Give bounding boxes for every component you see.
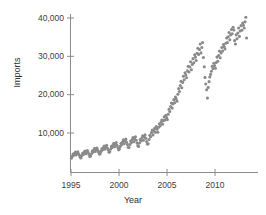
y-axis-tick-label: 40,000 [0,14,64,23]
data-point [201,41,204,44]
data-point [190,68,193,71]
data-point [184,74,187,77]
data-point [227,35,230,38]
data-point [171,107,174,110]
data-point [228,38,231,41]
data-point [192,61,195,64]
data-point [234,43,237,46]
data-point [156,131,159,134]
data-point [108,150,111,153]
data-point [231,32,234,35]
data-point [166,118,169,121]
data-point [210,70,213,73]
data-point [208,80,211,83]
data-point [244,20,247,23]
data-point [203,76,206,79]
data-point [177,87,180,90]
data-point [180,86,183,89]
data-point [161,123,164,126]
data-point [105,144,108,147]
data-point [244,16,247,19]
data-point [233,39,236,42]
axis-lines [71,14,259,173]
data-point [135,139,138,142]
data-point [149,135,152,138]
data-point [147,142,150,145]
data-point [142,139,145,142]
data-point [198,48,201,51]
data-point [176,93,179,96]
data-point [237,26,240,29]
data-point [219,56,222,59]
data-point [238,35,241,38]
x-axis-tick-label: 2005 [147,181,187,190]
data-point [199,51,202,54]
chart-figure: 10,00020,00030,00040,000 199520002005201… [0,0,266,215]
data-point [185,76,188,79]
data-point [175,100,178,103]
data-point [242,24,245,27]
data-point [200,46,203,49]
data-point [151,133,154,136]
y-axis-tick-label: 20,000 [0,90,64,99]
data-point [189,60,192,63]
data-point [137,145,140,148]
data-point [144,137,147,140]
data-point [178,90,181,93]
data-point [208,75,211,78]
data-point [206,97,209,100]
data-point [168,110,171,113]
data-point [216,60,219,63]
data-point [202,56,205,59]
data-point [240,29,243,32]
data-point [243,26,246,29]
x-axis-title: Year [0,196,266,205]
x-axis-tick-label: 1995 [51,181,91,190]
data-point [194,56,197,59]
data-point-group [70,16,248,160]
x-axis-tick-label: 2000 [99,181,139,190]
data-point [167,113,170,116]
data-point [232,28,235,31]
data-point [213,64,216,67]
x-axis-tick-label: 2010 [195,181,235,190]
data-point [115,141,118,144]
data-point [124,138,127,141]
y-axis-tick-label: 10,000 [0,129,64,138]
data-point [245,36,248,39]
data-point [223,48,226,51]
y-axis-title: Imports [13,43,22,103]
y-axis-tick-label: 30,000 [0,52,64,61]
data-point [207,86,210,89]
data-point [187,71,190,74]
data-point [235,37,238,40]
data-point [204,82,207,85]
data-point [127,146,130,149]
data-point [226,41,229,44]
data-point [203,65,206,68]
data-point [183,78,186,81]
data-point [209,73,212,76]
data-point [188,66,191,69]
data-point [181,81,184,84]
data-point [118,148,121,151]
data-point [214,67,217,70]
data-point [232,26,235,29]
data-point [236,31,239,34]
data-point [195,59,198,62]
data-point [148,138,151,141]
data-point [143,133,146,136]
data-point [134,135,137,138]
data-point [221,49,224,52]
